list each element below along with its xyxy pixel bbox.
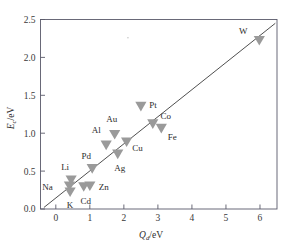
point-label-pd: Pd (81, 151, 91, 161)
marker-fe (156, 124, 167, 134)
point-label-fe: Fe (168, 132, 177, 142)
x-tick-label: 1 (87, 213, 92, 223)
y-tick-label: 2.5 (24, 15, 36, 25)
point-label-w: W (239, 26, 248, 36)
point-label-li: Li (61, 162, 69, 172)
x-tick-label: 4 (190, 213, 195, 223)
marker-pt (135, 102, 146, 112)
point-label-co: Co (161, 111, 172, 121)
svg-text:Ec/eV: Ec/eV (6, 107, 17, 131)
point-label-cd: Cd (80, 196, 91, 206)
point-label-k: K (67, 200, 74, 210)
point-label-cu: Cu (132, 143, 143, 153)
marker-cu (121, 137, 132, 147)
x-tick-label: 3 (156, 213, 161, 223)
marker-ag (112, 150, 123, 160)
marker-al (101, 141, 112, 151)
marker-k (65, 188, 76, 198)
chart-canvas: 0.00.51.01.52.02.5 0123456 NaLiKCdZnPdAl… (0, 0, 285, 246)
point-label-pt: Pt (149, 100, 157, 110)
plot-frame (41, 20, 278, 210)
plot-border (41, 20, 278, 210)
x-tick-label: 2 (121, 213, 126, 223)
point-label-zn: Zn (99, 182, 109, 192)
scatter-chart: 0.00.51.01.52.02.5 0123456 NaLiKCdZnPdAl… (0, 0, 285, 246)
x-axis-tick-labels: 0123456 (53, 213, 262, 223)
x-axis-title: Qd/eV (139, 230, 163, 241)
point-label-na: Na (42, 182, 53, 192)
y-tick-label: 0.0 (24, 204, 36, 214)
speck (127, 37, 128, 38)
y-tick-label: 2.0 (24, 53, 36, 63)
x-tick-label: 5 (224, 213, 229, 223)
y-tick-label: 1.5 (24, 91, 36, 101)
x-tick-label: 6 (258, 213, 263, 223)
marker-w (254, 36, 265, 46)
point-label-al: Al (92, 125, 101, 135)
y-axis-tick-labels: 0.00.51.01.52.02.5 (24, 15, 36, 215)
y-axis-title: Ec/eV (6, 107, 17, 131)
marker-au (109, 130, 120, 140)
x-tick-label: 0 (53, 213, 58, 223)
y-tick-label: 0.5 (24, 167, 36, 177)
y-tick-label: 1.0 (24, 129, 36, 139)
point-label-au: Au (106, 114, 117, 124)
svg-text:Qd/eV: Qd/eV (139, 230, 163, 241)
image-speckles (127, 37, 128, 38)
point-label-ag: Ag (114, 163, 125, 173)
